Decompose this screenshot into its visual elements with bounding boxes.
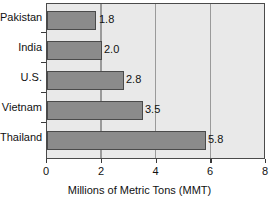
bar-us — [47, 71, 124, 90]
bar-thailand — [47, 131, 206, 150]
value-label-vietnam: 3.5 — [145, 104, 160, 115]
xtick-label-2: 2 — [91, 166, 111, 177]
xtick-mark-0 — [46, 159, 47, 163]
ytick-mark-3 — [41, 92, 46, 93]
value-label-thailand: 5.8 — [208, 134, 223, 145]
ytick-mark-2 — [41, 62, 46, 63]
bar-pakistan — [47, 11, 96, 30]
ylabel-us: U.S. — [0, 72, 42, 83]
value-label-india: 2.0 — [104, 44, 119, 55]
xtick-label-6: 6 — [200, 166, 220, 177]
value-label-us: 2.8 — [126, 74, 141, 85]
value-label-pakistan: 1.8 — [99, 14, 114, 25]
x-axis-title: Millions of Metric Tons (MMT) — [0, 184, 279, 196]
ylabel-pakistan: Pakistan — [0, 12, 42, 23]
bar-vietnam — [47, 101, 143, 120]
xtick-mark-2 — [101, 159, 102, 163]
xtick-label-8: 8 — [255, 166, 275, 177]
ylabel-india: India — [0, 42, 42, 53]
ylabel-vietnam: Vietnam — [0, 102, 42, 113]
bar-chart: 1.8 2.0 2.8 3.5 5.8 Pakistan India U.S. … — [0, 0, 279, 201]
ytick-mark-1 — [41, 32, 46, 33]
xtick-mark-4 — [156, 159, 157, 163]
xtick-mark-8 — [265, 159, 266, 163]
ylabel-thailand: Thailand — [0, 132, 42, 143]
plot-area — [46, 3, 265, 159]
xtick-mark-6 — [210, 159, 211, 163]
xtick-label-4: 4 — [146, 166, 166, 177]
bar-india — [47, 41, 102, 60]
ytick-mark-4 — [41, 122, 46, 123]
xtick-label-0: 0 — [36, 166, 56, 177]
